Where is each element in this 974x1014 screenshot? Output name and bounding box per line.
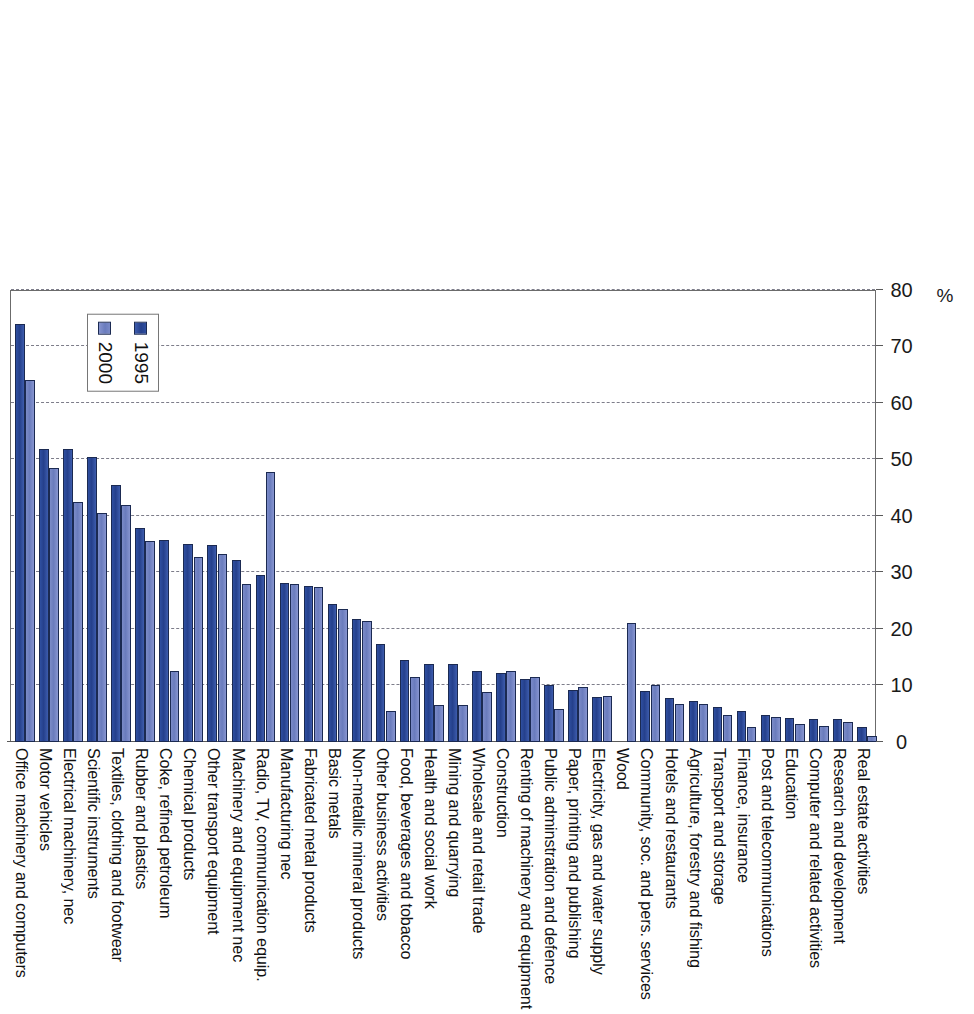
category-label: Mining and quarrying (445, 748, 464, 1014)
category-label: Paper, printing and publishing (565, 748, 584, 1014)
category-label: Post and telecommunications (758, 748, 777, 1014)
bar-1995 (376, 644, 386, 742)
bar-1995 (39, 449, 49, 742)
bar-2000 (49, 468, 59, 742)
bar-2000 (362, 621, 372, 742)
category-label: Computer and related activities (806, 748, 825, 1014)
category-label: Real estate activities (854, 748, 873, 1014)
legend-swatch-1995 (134, 321, 147, 334)
category-label: Research and development (830, 748, 849, 1014)
category-label: Renting of machinery and equipment (517, 748, 536, 1014)
bar-2000 (554, 709, 564, 742)
bar-1995 (857, 727, 867, 742)
category-label: Public adminstration and defence (541, 748, 560, 1014)
axis-unit-label: % (937, 285, 954, 307)
category-label: Non-metallic mineral products (349, 748, 368, 1014)
bar-2000 (73, 502, 83, 742)
bar-1995 (785, 718, 795, 742)
axis-tick-label: 30 (880, 561, 924, 584)
bar-1995 (183, 544, 193, 742)
bar-1995 (448, 664, 458, 742)
category-label: Electrical machinery, nec (60, 748, 79, 1014)
bar-1995 (689, 701, 699, 742)
bar-1995 (256, 575, 266, 742)
axis-tick-label: 0 (880, 731, 924, 754)
bar-1995 (665, 698, 675, 742)
category-label: Wood (613, 748, 632, 1014)
bar-1995 (87, 457, 97, 742)
legend-entry: 1995 (130, 321, 152, 383)
category-label: Finance, insurance (734, 748, 753, 1014)
bar-1995 (761, 715, 771, 742)
category-label: Construction (493, 748, 512, 1014)
bar-1995 (520, 679, 530, 742)
bar-2000 (578, 687, 588, 742)
category-label: Motor vehicles (36, 748, 55, 1014)
category-label: Radio, TV, communication equip. (253, 748, 272, 1014)
bar-2000 (627, 623, 637, 742)
category-label: Office machinery and computers (12, 748, 31, 1014)
axis-tick-label: 10 (880, 674, 924, 697)
category-label: Education (782, 748, 801, 1014)
bar-2000 (458, 705, 468, 742)
bar-1995 (328, 604, 338, 742)
bar-2000 (723, 715, 733, 742)
category-label: Other business activities (373, 748, 392, 1014)
category-label: Scientific instruments (84, 748, 103, 1014)
bar-2000 (145, 541, 155, 742)
bar-2000 (434, 705, 444, 742)
category-label: Wholesale and retail trade (469, 748, 488, 1014)
bar-2000 (266, 472, 276, 742)
bar-2000 (410, 677, 420, 742)
bar-2000 (699, 704, 709, 742)
category-label: Hotels and restaurants (662, 748, 681, 1014)
bar-1995 (592, 697, 602, 742)
bar-1995 (135, 528, 145, 742)
bar-2000 (338, 609, 348, 742)
bar-2000 (218, 554, 228, 742)
category-label: Agriculture, forestry and fishing (686, 748, 705, 1014)
bar-2000 (170, 671, 180, 742)
bar-1995 (496, 673, 506, 742)
bar-2000 (843, 722, 853, 742)
bar-2000 (194, 557, 204, 742)
legend-label: 1995 (130, 341, 152, 383)
bar-1995 (207, 545, 217, 742)
bar-1995 (15, 324, 25, 742)
bar-1995 (544, 686, 554, 743)
bar-2000 (506, 671, 516, 742)
bar-2000 (25, 380, 35, 742)
category-label: Coke, refined petroleum (156, 748, 175, 1014)
bar-2000 (530, 677, 540, 742)
legend-entry: 2000 (94, 321, 116, 383)
axis-tick-label: 20 (880, 618, 924, 641)
bar-1995 (833, 719, 843, 742)
category-label: Other transport equipment (204, 748, 223, 1014)
bar-1995 (568, 690, 578, 742)
bar-2000 (819, 726, 829, 742)
axis-tick-label: 50 (880, 448, 924, 471)
bar-1995 (737, 711, 747, 742)
bar-2000 (97, 513, 107, 742)
axis-tick-label: 60 (880, 392, 924, 415)
axis-tick-label: 40 (880, 505, 924, 528)
category-label: Food, beverages and tobacco (397, 748, 416, 1014)
bar-1995 (400, 660, 410, 742)
category-label: Transport and storage (710, 748, 729, 1014)
bar-1995 (111, 485, 121, 742)
bar-1995 (640, 691, 650, 742)
category-label: Electricity, gas and water supply (589, 748, 608, 1014)
category-label: Machinery and equipment nec (229, 748, 248, 1014)
category-label: Chemical products (180, 748, 199, 1014)
category-label: Textiles, clothing and footwear (108, 748, 127, 1014)
bar-1995 (713, 707, 723, 742)
bar-2000 (482, 692, 492, 742)
bar-2000 (603, 696, 613, 742)
category-label: Manufacturing nec (277, 748, 296, 1014)
bar-2000 (121, 505, 131, 742)
bar-1995 (472, 671, 482, 742)
bar-1995 (809, 719, 819, 742)
category-label: Health and social work (421, 748, 440, 1014)
bar-1995 (159, 540, 169, 742)
